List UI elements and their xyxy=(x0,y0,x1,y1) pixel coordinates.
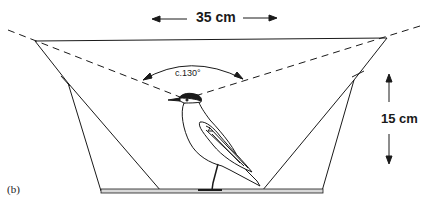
inner-right-wall xyxy=(262,80,354,191)
funnel-left-upper-edge xyxy=(35,41,68,83)
width-dimension-label: 35 cm xyxy=(196,9,236,25)
angle-arrow-right-icon xyxy=(234,72,243,79)
height-dimension-label: 15 cm xyxy=(381,111,418,126)
bird-illustration xyxy=(168,93,260,190)
height-arrow-down-icon xyxy=(386,156,392,164)
right-joint-tick xyxy=(352,71,364,77)
funnel-diagram: 35 cm c.130° 15 cm (b) xyxy=(0,0,426,202)
height-arrow-up-icon xyxy=(386,74,392,82)
bird-leg xyxy=(212,164,218,190)
angle-arrow-left-icon xyxy=(143,73,152,80)
angle-label: c.130° xyxy=(175,68,201,78)
right-sightline-dashed xyxy=(195,26,420,96)
funnel-top-rim xyxy=(35,38,387,41)
diagram-drawing xyxy=(0,0,426,202)
funnel-right-lower-edge xyxy=(322,80,354,191)
inner-left-wall xyxy=(68,83,161,191)
bird-beak xyxy=(168,98,180,101)
panel-label: (b) xyxy=(7,183,20,195)
width-arrow-left-icon xyxy=(152,16,160,22)
width-arrow-right-icon xyxy=(269,15,277,21)
funnel-left-lower-edge xyxy=(68,83,101,191)
bird-eye xyxy=(186,99,188,101)
